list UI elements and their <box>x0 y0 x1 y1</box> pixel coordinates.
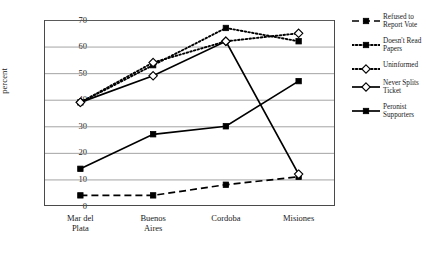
data-point <box>78 193 83 198</box>
legend-label-line: Never Splits <box>383 79 426 87</box>
series-line <box>80 81 298 169</box>
x-tick-label-line: Misiones <box>263 213 335 223</box>
x-tick-label-line: Mar del <box>44 213 116 223</box>
x-tick-label-line: Cordoba <box>190 213 262 223</box>
data-point <box>294 29 302 37</box>
x-tick-label: Misiones <box>263 213 335 223</box>
series-peronist-supporters <box>78 78 302 171</box>
plot-area <box>44 20 335 206</box>
legend-key-swatch <box>352 104 380 124</box>
legend-key-svg <box>352 38 380 52</box>
data-point <box>296 39 301 44</box>
legend-item-label: PeronistSupporters <box>383 103 426 120</box>
legend-item-refused-to-report-vote[interactable]: Refused toReport Vote <box>352 14 426 36</box>
x-tick-label: Mar delPlata <box>44 213 116 233</box>
legend-item-label: Doesn't ReadPapers <box>383 37 426 54</box>
x-tick-label: Cordoba <box>190 213 262 223</box>
x-tick-label-line: Buenos <box>117 213 189 223</box>
legend-label-line: Papers <box>383 45 426 53</box>
legend-key-swatch <box>352 14 380 34</box>
legend-label-line: Supporters <box>383 111 426 119</box>
data-point <box>149 72 157 80</box>
plot-svg <box>44 20 335 206</box>
series-never-splits-ticket <box>76 37 303 178</box>
series-refused-to-report-vote <box>78 174 302 198</box>
legend-key-svg <box>352 14 380 28</box>
legend-item-label: Uninformed <box>383 61 426 69</box>
y-axis-title: percent <box>0 41 9 121</box>
legend-label-line: Ticket <box>383 87 426 95</box>
legend-key-marker <box>362 65 370 73</box>
legend-key-svg <box>352 104 380 118</box>
data-point <box>150 132 155 137</box>
legend-key-marker <box>362 83 370 91</box>
data-point <box>150 193 155 198</box>
legend-label-line: Refused to <box>383 13 426 21</box>
legend-label-line: Report Vote <box>383 21 426 29</box>
chart-figure: percent 010203040506070 Mar delPlataBuen… <box>0 0 426 254</box>
legend-item-never-splits-ticket[interactable]: Never SplitsTicket <box>352 80 426 102</box>
legend-key-swatch <box>352 80 380 100</box>
legend-item-label: Never SplitsTicket <box>383 79 426 96</box>
legend-key-swatch <box>352 38 380 58</box>
series-line <box>80 33 298 102</box>
legend-key-marker <box>363 42 368 47</box>
legend-key-swatch <box>352 62 380 82</box>
legend-item-label: Refused toReport Vote <box>383 13 426 30</box>
data-point <box>222 37 230 45</box>
data-point <box>223 124 228 129</box>
legend-key-marker <box>363 18 368 23</box>
data-point <box>223 182 228 187</box>
series-uninformed <box>76 29 303 106</box>
x-tick-label-line: Plata <box>44 223 116 233</box>
legend-label-line: Peronist <box>383 103 426 111</box>
legend-label-line: Uninformed <box>383 61 426 69</box>
data-point <box>223 25 228 30</box>
legend-key-svg <box>352 80 380 94</box>
data-point <box>296 78 301 83</box>
legend-item-doesn-t-read-papers[interactable]: Doesn't ReadPapers <box>352 38 426 60</box>
legend-key-marker <box>363 108 368 113</box>
legend-key-svg <box>352 62 380 76</box>
data-point <box>78 166 83 171</box>
legend-label-line: Doesn't Read <box>383 37 426 45</box>
x-tick-label-line: Aires <box>117 223 189 233</box>
x-tick-label: BuenosAires <box>117 213 189 233</box>
legend-item-peronist-supporters[interactable]: PeronistSupporters <box>352 104 426 126</box>
